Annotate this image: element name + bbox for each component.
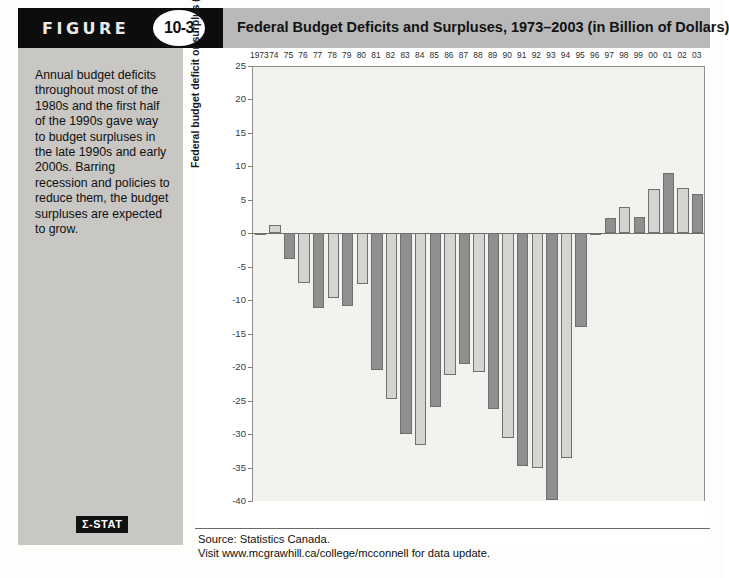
bar-1993 [546,233,557,500]
y-axis-tick: -5 [199,261,253,272]
x-axis-labels: 1973747576777879808182838485868788899091… [252,50,704,64]
bar-1994 [561,233,572,458]
caption-text: Annual budget deficits throughout most o… [35,68,170,237]
figure-title: Federal Budget Deficits and Surpluses, 1… [237,19,729,35]
x-axis-tick-1975: 75 [282,50,295,60]
caption-sidebar: Annual budget deficits throughout most o… [18,48,183,545]
bar-1997 [605,218,616,233]
plot-frame-right [704,66,705,501]
x-axis-tick-1980: 80 [355,50,368,60]
y-axis-label: Federal budget deficit or surplus (billi… [189,0,201,168]
y-axis-tick: -25 [199,395,253,406]
x-axis-tick-2001: 01 [661,50,674,60]
y-axis-tick: -20 [199,361,253,372]
bar-1981 [371,233,382,370]
y-axis-tick: -30 [199,428,253,439]
y-axis-tick: 20 [199,93,253,104]
source-divider [195,528,710,529]
x-axis-tick-1977: 77 [311,50,324,60]
bar-1974 [269,225,280,233]
y-axis-tick: 15 [199,127,253,138]
bar-1973 [255,233,266,235]
y-axis-tick: 25 [199,60,253,71]
bar-1987 [459,233,470,364]
bar-1982 [386,233,397,398]
y-axis-tick: 5 [199,194,253,205]
y-axis-tick: 10 [199,160,253,171]
x-axis-tick-1993: 93 [544,50,557,60]
x-axis-tick-1988: 88 [472,50,485,60]
y-axis-tick-mark [248,166,253,167]
y-axis-tick-mark [248,334,253,335]
bar-1980 [357,233,368,284]
bar-2001 [663,173,674,233]
x-axis-tick-1996: 96 [588,50,601,60]
stat-logo: Σ-STAT [76,516,128,533]
y-axis-tick: 0 [199,227,253,238]
bar-1984 [415,233,426,445]
figure-header: FIGURE 10-3 Federal Budget Deficits and … [18,8,710,48]
bar-1978 [328,233,339,298]
bar-1991 [517,233,528,466]
x-axis-tick-1983: 83 [399,50,412,60]
y-axis-tick-mark [248,434,253,435]
x-axis-tick-1997: 97 [603,50,616,60]
x-axis-tick-1981: 81 [369,50,382,60]
bar-1977 [313,233,324,307]
y-axis-tick-mark [248,501,253,502]
bar-2002 [677,188,688,234]
x-axis-tick-1978: 78 [326,50,339,60]
y-axis-tick-mark [248,200,253,201]
bar-1976 [298,233,309,283]
y-axis-tick-mark [248,300,253,301]
bar-1975 [284,233,295,258]
x-axis-tick-1999: 99 [632,50,645,60]
x-axis-tick-1982: 82 [384,50,397,60]
x-axis-tick-2000: 00 [646,50,659,60]
bar-1992 [532,233,543,468]
x-axis-tick-1984: 84 [413,50,426,60]
bar-1998 [619,207,630,234]
x-axis-tick-1979: 79 [340,50,353,60]
y-axis-tick: -10 [199,294,253,305]
y-axis-tick-mark [248,133,253,134]
bar-1979 [342,233,353,306]
bar-1995 [575,233,586,327]
bar-1988 [473,233,484,372]
x-axis-tick-1998: 98 [617,50,630,60]
x-axis-tick-1994: 94 [559,50,572,60]
bar-1996 [590,233,601,235]
bar-1985 [430,233,441,406]
source-line-1: Source: Statistics Canada. [198,533,490,547]
figure-title-block: Federal Budget Deficits and Surpluses, 1… [223,8,710,48]
y-axis-tick: -35 [199,462,253,473]
bar-1986 [444,233,455,374]
bar-2003 [692,194,703,233]
bar-1999 [634,217,645,234]
bar-2000 [648,189,659,233]
x-axis-tick-1985: 85 [428,50,441,60]
x-axis-tick-1990: 90 [501,50,514,60]
source-block: Source: Statistics Canada. Visit www.mcg… [198,533,490,560]
x-axis-tick-2002: 02 [676,50,689,60]
bar-1989 [488,233,499,408]
y-axis-tick-mark [248,401,253,402]
y-axis-tick-mark [248,267,253,268]
plot-frame-top [252,66,704,67]
x-axis-tick-2003: 03 [690,50,703,60]
x-axis-tick-1974: 74 [267,50,280,60]
x-axis-tick-1995: 95 [574,50,587,60]
x-axis-tick-1989: 89 [486,50,499,60]
y-axis-tick-mark [248,367,253,368]
bar-1990 [502,233,513,438]
y-axis-tick: -40 [199,495,253,506]
x-axis-tick-1986: 86 [442,50,455,60]
y-axis-tick-mark [248,468,253,469]
plot-area: 2520151050-5-10-15-20-25-30-35-40 [252,66,705,501]
source-line-2: Visit www.mcgrawhill.ca/college/mcconnel… [198,547,490,561]
x-axis-tick-1991: 91 [515,50,528,60]
y-axis-tick-mark [248,99,253,100]
bar-1983 [400,233,411,434]
chart-panel: Federal budget deficit or surplus (billi… [195,48,710,545]
